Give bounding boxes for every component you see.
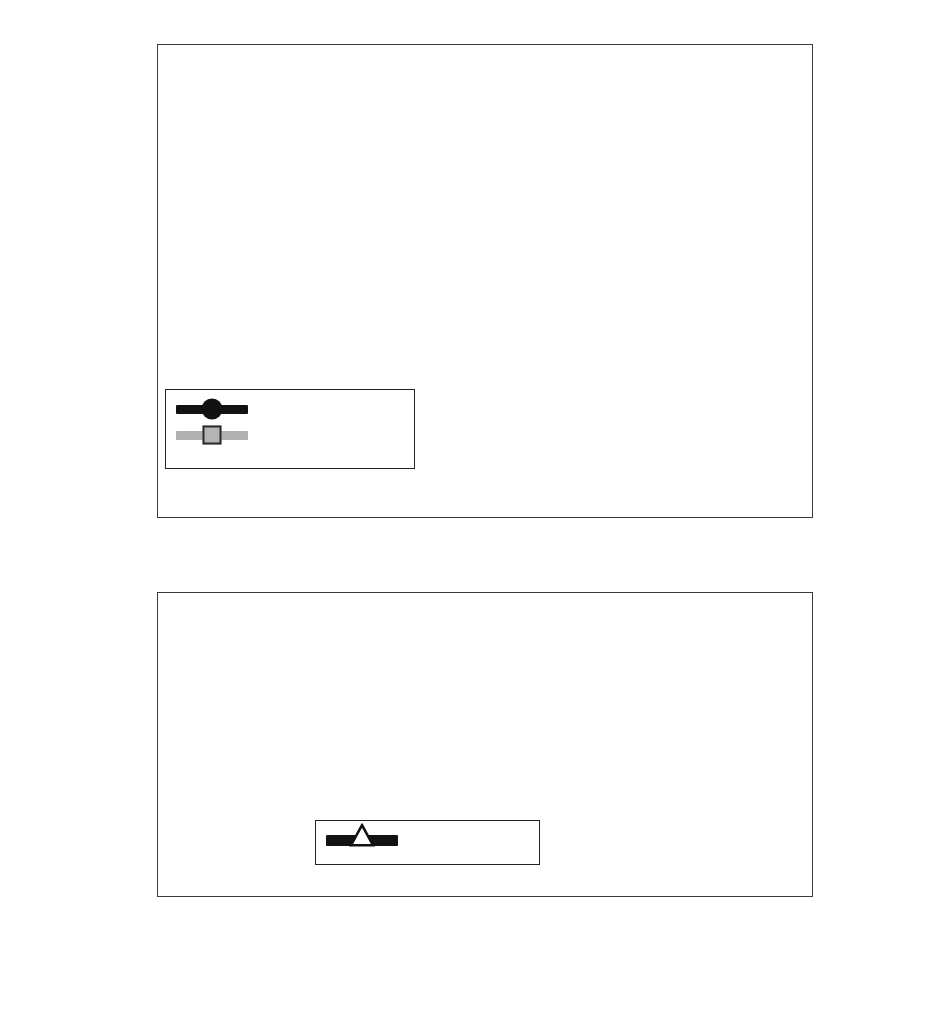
bottom-series-layer bbox=[0, 0, 935, 1027]
triangle-marker-icon bbox=[349, 823, 375, 851]
hardness-swatch bbox=[326, 829, 398, 851]
bottom-legend bbox=[315, 820, 540, 865]
figure-page bbox=[0, 0, 935, 1027]
legend-item-hardness bbox=[326, 824, 527, 856]
